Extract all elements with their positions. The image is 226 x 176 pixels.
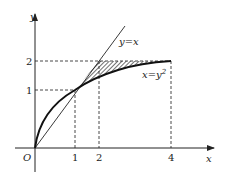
x-tick-4: 4 [168,152,174,163]
y-axis-label: y [29,11,36,22]
line-label: y=x [118,36,139,47]
origin-label: O [23,152,31,163]
y-tick-1: 1 [26,85,32,96]
y-tick-2: 2 [26,56,32,67]
diagram-canvas: y x O 1 2 4 1 2 y=x x=y2 [0,0,226,176]
x-tick-1: 1 [72,152,78,163]
x-axis-label: x [206,153,212,164]
curve-label: x=y2 [142,68,167,80]
x-tick-2: 2 [96,152,102,163]
